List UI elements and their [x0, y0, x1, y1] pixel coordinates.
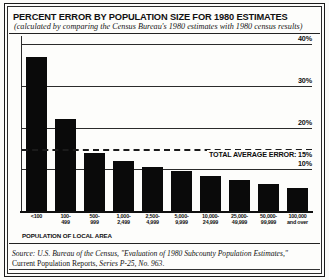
bar [229, 180, 249, 211]
bar [258, 184, 278, 211]
x-tick-label-line: and over [281, 219, 314, 225]
source-line-2-plain: Current Population Reports, [12, 259, 99, 268]
source-line-2: Current Population Reports, Series P-25,… [12, 259, 318, 269]
bar [287, 188, 307, 211]
chart-subtitle: (calculated by comparing the Census Bure… [14, 22, 316, 31]
bar-series [22, 36, 312, 211]
title-divider [9, 33, 320, 34]
y-axis-line [21, 36, 22, 212]
chart-title: PERCENT ERROR BY POPULATION SIZE FOR 198… [13, 11, 310, 22]
bar [200, 176, 220, 211]
chart-figure: PERCENT ERROR BY POPULATION SIZE FOR 198… [0, 0, 329, 280]
x-axis-title: POPULATION OF LOCAL AREA [22, 232, 112, 239]
plot-area: 10%20%30%40% TOTAL AVERAGE ERROR: 15% [22, 36, 312, 211]
bar [84, 153, 104, 211]
bar [113, 161, 133, 211]
source-line-2-period: . [162, 259, 164, 268]
bar [26, 57, 46, 211]
bar [142, 167, 162, 211]
source-line-1: Source: U.S. Bureau of the Census, "Eval… [12, 249, 318, 259]
source-divider [9, 243, 320, 244]
x-axis-tick-labels: <100100-499500-9991,000-2,4992,500-4,999… [22, 213, 312, 233]
source-note: Source: U.S. Bureau of the Census, "Eval… [12, 249, 318, 268]
bar [55, 119, 75, 211]
bottom-divider [9, 269, 320, 270]
source-line-2-series: Series P-25, No. 963 [99, 259, 162, 268]
bar [171, 171, 191, 211]
x-tick-label: 100,000and over [281, 213, 314, 225]
average-error-label: TOTAL AVERAGE ERROR: 15% [207, 150, 312, 159]
